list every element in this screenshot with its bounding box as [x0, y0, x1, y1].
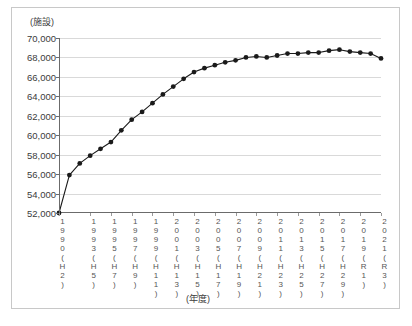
data-point-marker [337, 47, 342, 52]
data-point-marker [358, 50, 363, 55]
x-axis-tick-mark [256, 213, 257, 216]
data-point-marker [233, 58, 238, 63]
data-point-marker [181, 76, 186, 81]
x-axis-tick-mark [215, 213, 216, 216]
y-axis-tick-labels: 52,00054,00056,00058,00060,00062,00064,0… [0, 38, 56, 213]
data-point-marker [150, 101, 155, 106]
y-axis-tick-label: 60,000 [27, 130, 56, 141]
x-axis-tick-label: 2013(H25) [291, 217, 305, 285]
x-axis-tick-mark [152, 213, 153, 216]
data-point-marker [327, 48, 332, 53]
data-point-marker [275, 53, 280, 58]
x-axis-tick-label: 2005(H17) [208, 217, 222, 285]
x-axis-tick-mark [90, 213, 91, 216]
data-point-marker [244, 55, 249, 60]
x-axis-tick-mark [132, 213, 133, 216]
x-axis-tick-mark [319, 213, 320, 216]
y-axis-tick-label: 54,000 [27, 188, 56, 199]
y-axis-tick-label: 64,000 [27, 91, 56, 102]
data-point-marker [88, 153, 93, 158]
data-point-marker [285, 51, 290, 56]
data-point-marker [254, 54, 259, 59]
x-axis-tick-labels: 1990(H2)1993(H5)1995(H7)1997(H9)1999(H11… [59, 217, 381, 287]
y-axis-tick-label: 56,000 [27, 169, 56, 180]
x-axis-tick-mark [236, 213, 237, 216]
data-point-marker [368, 51, 373, 56]
data-point-marker [202, 66, 207, 71]
x-axis-title: (年度) [186, 292, 210, 305]
y-axis-tick-label: 68,000 [27, 52, 56, 63]
data-point-marker [160, 92, 165, 97]
data-point-marker [129, 117, 134, 122]
line-series [59, 38, 381, 213]
data-point-marker [171, 84, 176, 89]
y-axis-tick-label: 70,000 [27, 33, 56, 44]
chart-figure: (施設) 52,00054,00056,00058,00060,00062,00… [0, 0, 412, 326]
x-axis-tick-label: 1993(H5) [83, 217, 97, 285]
data-point-marker [119, 128, 124, 133]
x-axis-tick-mark [111, 213, 112, 216]
x-axis-tick-label: 1995(H7) [104, 217, 118, 285]
data-point-marker [67, 173, 72, 178]
data-point-marker [316, 50, 321, 55]
y-axis-line [59, 38, 60, 213]
x-axis-tick-label: 2019(R1) [353, 217, 367, 285]
data-point-marker [296, 51, 301, 56]
data-point-marker [192, 70, 197, 75]
x-axis-tick-label: 2015(H27) [312, 217, 326, 285]
x-axis-tick-label: 2009(H21) [249, 217, 263, 285]
x-axis-tick-label: 1997(H9) [125, 217, 139, 285]
x-axis-tick-label: 1999(H11) [145, 217, 159, 285]
data-point-marker [212, 63, 217, 68]
x-axis-tick-label: 2017(H29) [332, 217, 346, 285]
clipped-caption [12, 319, 222, 324]
x-axis-tick-label: 2007(H19) [229, 217, 243, 285]
data-point-marker [140, 109, 145, 114]
x-axis-tick-mark [381, 213, 382, 216]
x-axis-tick-label: 2001(H13) [166, 217, 180, 285]
x-axis-tick-mark [277, 213, 278, 216]
x-axis-tick-label: 1990(H2) [52, 217, 66, 285]
x-axis-tick-mark [339, 213, 340, 216]
data-point-marker [264, 55, 269, 60]
x-axis-tick-mark [194, 213, 195, 216]
data-point-marker [379, 56, 384, 61]
data-point-marker [109, 140, 114, 145]
data-point-marker [223, 60, 228, 65]
y-axis-tick-label: 62,000 [27, 110, 56, 121]
data-point-marker [77, 161, 82, 166]
x-axis-tick-mark [298, 213, 299, 216]
y-axis-tick-label: 58,000 [27, 149, 56, 160]
x-axis-tick-label: 2003(H15) [187, 217, 201, 285]
x-axis-tick-label: 2021(R3) [374, 217, 388, 285]
data-point-marker [347, 49, 352, 54]
data-point-marker [98, 146, 103, 151]
x-axis-tick-label: 2011(H23) [270, 217, 284, 285]
x-axis-tick-mark [173, 213, 174, 216]
x-axis-tick-mark [360, 213, 361, 216]
x-axis-tick-mark [59, 213, 60, 216]
data-point-marker [306, 50, 311, 55]
plot-area [59, 38, 381, 213]
series-line [59, 50, 381, 213]
y-axis-unit-label: (施設) [30, 15, 54, 28]
y-axis-tick-label: 66,000 [27, 71, 56, 82]
